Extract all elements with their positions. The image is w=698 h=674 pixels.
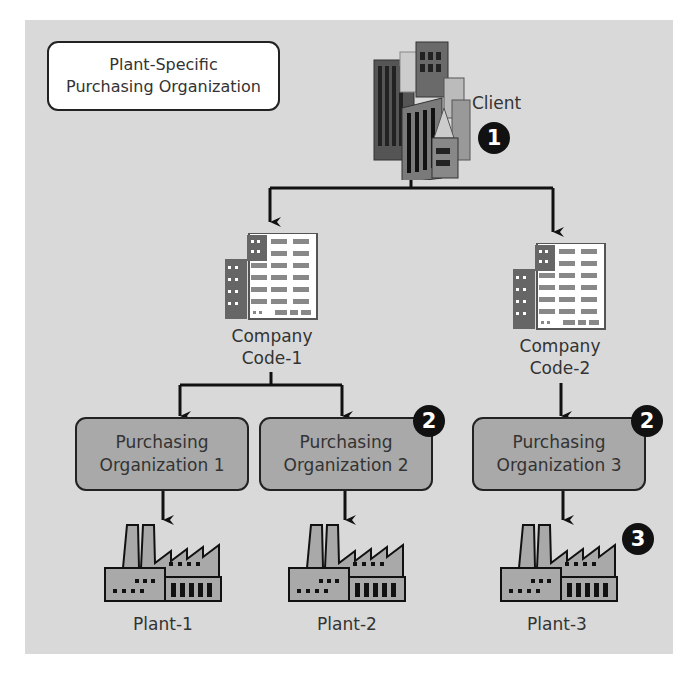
title-line-2: Purchasing Organization — [66, 76, 261, 98]
plant-2-label: Plant-2 — [297, 613, 397, 635]
purchasing-org-1-box: Purchasing Organization 1 — [75, 417, 249, 491]
city-buildings-icon — [372, 38, 472, 180]
company-code-1-label: Company Code-1 — [222, 325, 322, 369]
client-label: Client — [472, 92, 521, 114]
factory-icon — [499, 523, 619, 603]
step-badge-3: 3 — [622, 523, 654, 555]
diagram-title-box: Plant-Specific Purchasing Organization — [47, 41, 280, 111]
step-badge-2: 2 — [413, 405, 445, 437]
step-badge-2b: 2 — [631, 405, 663, 437]
title-line-1: Plant-Specific — [109, 54, 217, 76]
step-badge-1: 1 — [478, 122, 510, 154]
factory-icon — [287, 523, 407, 603]
purchasing-org-3-box: Purchasing Organization 3 — [472, 417, 646, 491]
office-building-icon — [511, 243, 607, 331]
company-code-2-label: Company Code-2 — [510, 335, 610, 379]
office-building-icon — [223, 233, 319, 321]
purchasing-org-2-box: Purchasing Organization 2 — [259, 417, 433, 491]
plant-1-label: Plant-1 — [113, 613, 213, 635]
plant-3-label: Plant-3 — [507, 613, 607, 635]
factory-icon — [103, 523, 223, 603]
